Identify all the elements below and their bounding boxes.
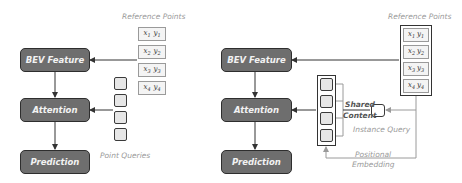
reference-point-3-right: x3y3 — [403, 62, 429, 76]
shared-label: Shared — [345, 100, 375, 109]
reference-point-1-left: x1y1 — [138, 27, 166, 41]
prediction-block-right: Prediction — [221, 150, 292, 174]
point-query-4 — [114, 128, 127, 141]
point-query-2 — [114, 94, 127, 107]
bev-feature-label: BEV Feature — [227, 55, 286, 65]
point-queries-label: Point Queries — [100, 151, 150, 160]
point-query-1 — [114, 77, 127, 90]
reference-point-4-right: x4y4 — [403, 79, 429, 93]
content-label: Content — [343, 111, 377, 120]
reference-point-3-left: x3y3 — [138, 63, 166, 77]
instance-query-4 — [320, 129, 333, 142]
reference-point-2-right: x2y2 — [403, 45, 429, 59]
instance-query-3 — [320, 112, 333, 125]
attention-label: Attention — [234, 105, 279, 115]
reference-points-label-right: Reference Points — [388, 12, 451, 21]
prediction-label: Prediction — [31, 157, 80, 167]
attention-block-right: Attention — [221, 98, 292, 122]
bev-feature-block-left: BEV Feature — [20, 48, 90, 72]
prediction-block-left: Prediction — [20, 150, 90, 174]
instance-query-2 — [320, 95, 333, 108]
reference-point-4-left: x4y4 — [138, 81, 166, 95]
bev-feature-label: BEV Feature — [26, 55, 85, 65]
reference-point-2-left: x2y2 — [138, 45, 166, 59]
positional-label: Positional — [355, 150, 391, 159]
bev-feature-block-right: BEV Feature — [221, 48, 292, 72]
instance-query-1 — [320, 78, 333, 91]
attention-block-left: Attention — [20, 98, 90, 122]
attention-label: Attention — [33, 105, 78, 115]
instance-query-label: Instance Query — [353, 125, 410, 134]
point-query-3 — [114, 111, 127, 124]
embedding-label: Embedding — [352, 160, 395, 169]
prediction-label: Prediction — [232, 157, 281, 167]
reference-points-label-left: Reference Points — [122, 12, 185, 21]
reference-point-1-right: x1y1 — [403, 28, 429, 42]
